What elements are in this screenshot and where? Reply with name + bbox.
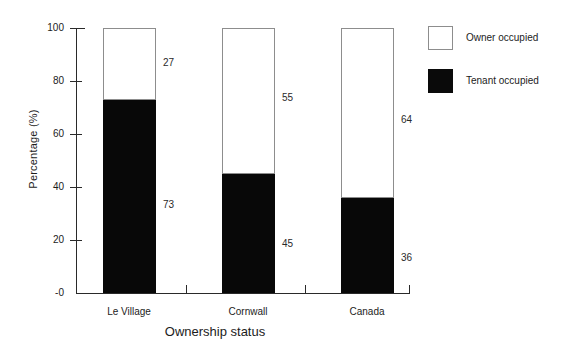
x-tick-2 xyxy=(305,285,306,294)
bar-canada-owner-segment xyxy=(341,28,394,198)
bar-canada-tenant-segment xyxy=(341,198,394,293)
bar-le-village-owner-segment xyxy=(103,28,156,100)
legend-label-owner-occupied: Owner occupied xyxy=(466,32,538,43)
bar-chart-figure: Percentage (%) 100 80 60 40 20 -0 27 73 … xyxy=(0,0,563,347)
y-tick-label-20: 20 xyxy=(30,234,64,245)
y-tick-100 xyxy=(70,28,82,29)
y-tick-20 xyxy=(70,240,82,241)
value-label-canada-owner: 64 xyxy=(401,114,412,125)
y-tick-label-0: -0 xyxy=(30,287,64,298)
bar-le-village-tenant-segment xyxy=(103,100,156,293)
x-tick-1 xyxy=(186,285,187,294)
bar-cornwall-tenant-segment xyxy=(222,174,275,293)
value-label-cornwall-tenant: 45 xyxy=(282,238,293,249)
y-axis-title: Percentage (%) xyxy=(27,69,39,229)
value-label-le-village-tenant: 73 xyxy=(163,199,174,210)
y-tick-label-100: 100 xyxy=(30,22,64,33)
x-tick-label-canada: Canada xyxy=(322,306,412,317)
y-tick-60 xyxy=(70,134,82,135)
legend-label-tenant-occupied: Tenant occupied xyxy=(466,75,539,86)
x-tick-label-le-village: Le Village xyxy=(84,306,174,317)
y-tick-label-80: 80 xyxy=(30,75,64,86)
value-label-canada-tenant: 36 xyxy=(401,252,412,263)
x-axis-title: Ownership status xyxy=(0,324,430,339)
value-label-le-village-owner: 27 xyxy=(163,57,174,68)
value-label-cornwall-owner: 55 xyxy=(282,92,293,103)
bar-cornwall-owner-segment xyxy=(222,28,275,174)
x-tick-label-cornwall: Cornwall xyxy=(203,306,293,317)
y-tick-label-60: 60 xyxy=(30,128,64,139)
legend-swatch-tenant-occupied xyxy=(428,69,453,93)
x-axis-line xyxy=(76,293,410,294)
y-tick-label-40: 40 xyxy=(30,181,64,192)
y-axis-line xyxy=(76,28,77,294)
y-tick-80 xyxy=(70,81,82,82)
x-tick-3 xyxy=(409,285,410,294)
legend-swatch-owner-occupied xyxy=(428,26,453,50)
y-tick-40 xyxy=(70,187,82,188)
